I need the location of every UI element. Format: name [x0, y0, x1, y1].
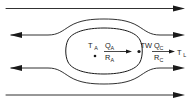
outer-top-streamline-arrow-right-icon: [173, 5, 185, 11]
inner-bottom-streamline: [10, 65, 185, 84]
node-t-a: T A: [88, 41, 98, 57]
node-t-l-label: T: [177, 48, 182, 57]
inner-bottom-streamline-arrow-right-icon: [173, 65, 185, 71]
inner-bottom-streamline-path: [11, 68, 176, 84]
transfer-ra-denominator-subscript: A: [111, 57, 115, 63]
outer-bottom-streamline: [6, 92, 185, 98]
transfer-qa-over-ra: Q A R A: [104, 41, 132, 63]
node-t-l-subscript: L: [183, 52, 186, 58]
node-tw-dot-icon: [137, 50, 140, 53]
node-t-a-dot-icon: [94, 55, 97, 58]
transfer-qc-over-rc: Q C R C: [152, 41, 175, 63]
node-t-a-label: T: [88, 41, 93, 50]
transfer-qc-numerator-subscript: C: [160, 45, 164, 51]
transfer-ra-denominator: R: [105, 53, 110, 62]
figure-canvas: T A Q A R A TW Q C R C: [0, 0, 195, 102]
transfer-qc-rc-arrow-right-icon: [169, 49, 175, 53]
inner-top-streamline-arrow-right-icon: [173, 32, 185, 38]
transfer-qa-numerator-subscript: A: [111, 45, 115, 51]
node-tw: TW: [137, 41, 152, 53]
outer-top-streamline: [6, 5, 185, 11]
node-tw-label: TW: [141, 41, 153, 50]
node-t-a-subscript: A: [94, 45, 98, 51]
node-t-l: T L: [177, 48, 186, 58]
capture-zone-boundary: [66, 28, 143, 74]
outer-bottom-streamline-arrow-right-icon: [173, 92, 185, 98]
capture-zone-outline-path: [66, 28, 143, 74]
inner-top-streamline-path: [11, 19, 176, 35]
transfer-qa-ra-arrow-right-icon: [126, 49, 132, 53]
flow-streamline-figure: T A Q A R A TW Q C R C: [0, 0, 195, 102]
transfer-rc-denominator: R: [154, 53, 159, 62]
transfer-rc-denominator-subscript: C: [160, 57, 164, 63]
